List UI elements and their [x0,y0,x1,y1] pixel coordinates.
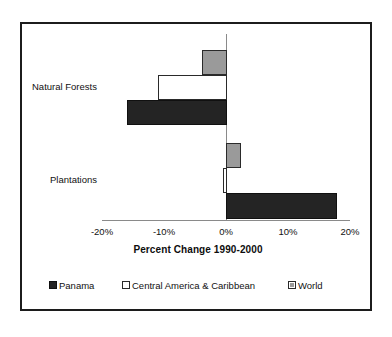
bar-plantations-central-america [223,168,227,193]
x-tick-label-pos10: 10% [278,226,297,237]
x-tick-label-zero: 0% [219,226,233,237]
legend-label-central-america: Central America & Caribbean [132,280,255,291]
x-axis-title: Percent Change 1990-2000 [22,244,374,255]
bar-natural-forests-world [202,50,227,75]
legend-label-world: World [298,280,323,291]
white-square-icon [122,281,130,289]
chart-legend: Panama Central America & Caribbean World [22,279,374,291]
x-tick-label-neg10: -10% [153,226,175,237]
legend-item-panama[interactable]: Panama [49,280,94,291]
gray-square-icon [288,281,296,289]
category-label-plantations: Plantations [50,174,97,185]
legend-item-world[interactable]: World [288,280,323,291]
bar-natural-forests-central-america [158,75,227,100]
legend-label-panama: Panama [59,280,94,291]
chart-plot-area: Natural Forests Plantations -20% -10% 0%… [22,24,374,313]
bar-plantations-world [226,143,241,168]
category-label-natural-forests: Natural Forests [32,81,97,92]
bar-natural-forests-panama [127,100,227,125]
black-square-icon [49,281,57,289]
x-tick-label-neg20: -20% [91,226,113,237]
x-axis-line [102,220,350,221]
legend-item-central-america[interactable]: Central America & Caribbean [122,280,255,291]
chart-frame: Natural Forests Plantations -20% -10% 0%… [20,22,372,311]
x-tick-label-pos20: 20% [340,226,359,237]
bar-plantations-panama [226,193,337,219]
